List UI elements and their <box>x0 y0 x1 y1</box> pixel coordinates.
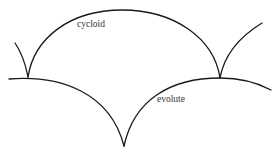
cycloid-arch <box>28 10 220 78</box>
cycloid-left-tail <box>15 43 28 77</box>
evolute-label: evolute <box>157 95 185 105</box>
cycloid-evolute-diagram <box>0 0 279 153</box>
cycloid-right-tail <box>220 23 262 78</box>
evolute-right-arc <box>124 78 271 146</box>
evolute-left-arc <box>9 78 124 146</box>
cycloid-label: cycloid <box>77 20 105 30</box>
